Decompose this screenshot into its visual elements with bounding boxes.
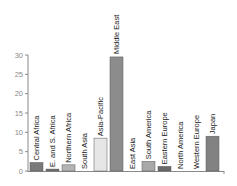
bar xyxy=(206,136,219,171)
bar xyxy=(94,138,107,171)
bar xyxy=(142,161,155,171)
bar xyxy=(110,57,123,171)
category-label: Middle East xyxy=(112,14,121,54)
bar xyxy=(62,165,75,171)
category-label: East Asia xyxy=(128,137,137,169)
y-tick-label: 30 xyxy=(15,51,23,60)
category-label: Northern Africa xyxy=(64,112,73,163)
y-tick-label: 5 xyxy=(19,147,23,156)
category-label: E. and S. Africa xyxy=(48,115,57,168)
bar xyxy=(158,166,171,171)
category-label: Western Europe xyxy=(192,115,201,169)
y-tick-label: 15 xyxy=(15,109,23,118)
category-label: Eastern Europe xyxy=(160,112,169,164)
y-tick-label: 20 xyxy=(15,89,23,98)
category-label: Central Africa xyxy=(32,115,41,161)
y-tick-label: 0 xyxy=(19,167,23,176)
category-label: South Asia xyxy=(80,132,89,169)
y-tick-label: 25 xyxy=(15,70,23,79)
category-label: Japan xyxy=(208,114,217,134)
category-label: Asia-Pacific xyxy=(96,97,105,136)
y-tick-label: 10 xyxy=(15,128,23,137)
category-label: South America xyxy=(144,110,153,160)
bar-chart: 051015202530Central AfricaE. and S. Afri… xyxy=(0,0,237,186)
bar xyxy=(46,169,59,171)
category-label: North America xyxy=(176,121,185,169)
bar xyxy=(30,162,43,171)
